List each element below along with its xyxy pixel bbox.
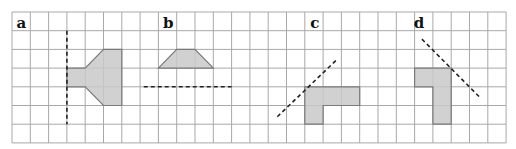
panel-labels: abcd bbox=[17, 14, 425, 32]
shape-d bbox=[415, 68, 452, 124]
panel-label-a: a bbox=[17, 14, 27, 32]
shape-a bbox=[67, 49, 122, 105]
panel-label-b: b bbox=[163, 14, 174, 32]
panel-label-c: c bbox=[310, 14, 319, 32]
shape-c bbox=[305, 87, 360, 124]
symmetry-grid-diagram: abcd bbox=[0, 0, 516, 149]
shape-b bbox=[158, 49, 213, 68]
panel-label-d: d bbox=[414, 14, 425, 32]
